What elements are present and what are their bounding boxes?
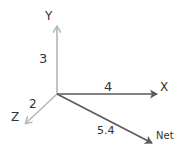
x-axis-vector: X 4 bbox=[57, 79, 168, 94]
y-magnitude-label: 3 bbox=[39, 51, 47, 66]
vector-diagram: Y 3 X 4 Z 2 Net 5.4 bbox=[0, 0, 183, 154]
x-axis-label: X bbox=[160, 80, 168, 94]
y-axis-vector: Y 3 bbox=[39, 9, 57, 94]
y-axis-label: Y bbox=[44, 9, 53, 23]
z-axis-label: Z bbox=[11, 110, 19, 124]
net-resultant-vector: Net 5.4 bbox=[57, 94, 174, 143]
x-magnitude-label: 4 bbox=[104, 79, 112, 94]
net-magnitude-label: 5.4 bbox=[97, 124, 115, 137]
z-axis-vector: Z 2 bbox=[11, 94, 57, 124]
z-magnitude-label: 2 bbox=[29, 97, 37, 111]
net-axis-label: Net bbox=[156, 130, 174, 141]
